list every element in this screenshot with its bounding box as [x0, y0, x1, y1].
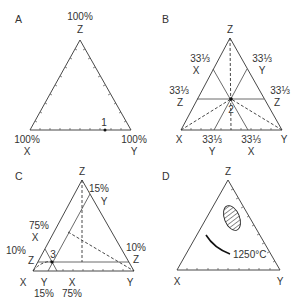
point-1-label: 1	[101, 117, 107, 128]
panel-label-a: A	[15, 13, 22, 25]
vertex-y-label: Y	[127, 277, 134, 288]
hatched-field	[220, 203, 244, 233]
x-percent-label: 75%	[29, 220, 49, 231]
frac-label: 33⅓	[169, 85, 189, 96]
y-label: Y	[209, 146, 216, 157]
vertex-x-label: X	[174, 276, 181, 287]
dashed-diagonal	[68, 232, 134, 271]
z-label: Z	[274, 97, 280, 108]
panel-a: A 100% Z 1 100% X 100% Y	[14, 11, 147, 157]
x-label: X	[32, 232, 39, 243]
composition-point-2	[229, 97, 233, 101]
ternary-diagrams: A 100% Z 1 100% X 100% Y B Z	[0, 0, 303, 302]
point-2-label: 2	[228, 104, 234, 115]
y-label: Y	[101, 196, 108, 207]
median-x	[181, 99, 231, 130]
x-label: X	[193, 65, 200, 76]
tick-marks	[35, 49, 126, 130]
apex-percent-label: 100%	[67, 11, 93, 22]
z-label: Z	[177, 97, 183, 108]
vertex-y-percent: 100%	[121, 134, 147, 145]
z-percent-label: 10%	[126, 242, 146, 253]
x-label: X	[248, 146, 255, 157]
point-3-label: 3	[50, 249, 56, 260]
apex-z-label: Z	[227, 24, 233, 35]
vertex-y-label: Y	[281, 134, 288, 145]
composition-point-3	[50, 260, 53, 263]
median-z	[230, 38, 231, 130]
frac-label: 33⅓	[252, 53, 272, 64]
y-label: Y	[259, 65, 266, 76]
y-label: Y	[41, 277, 48, 288]
composition-point-1	[104, 129, 107, 132]
frac-label: 33⅓	[270, 85, 290, 96]
vertex-x-percent: 100%	[14, 134, 40, 145]
vertex-x-label: X	[176, 134, 183, 145]
ternary-triangle	[30, 40, 131, 130]
z-label: Z	[133, 254, 139, 265]
x-percent-label: 75%	[62, 288, 82, 299]
y-percent-label: 15%	[89, 183, 109, 194]
panel-label-c: C	[15, 170, 23, 182]
apex-z-label: Z	[225, 166, 231, 177]
apex-z-label: Z	[77, 24, 83, 35]
z-percent-label: 10%	[6, 245, 26, 256]
vertex-y-label: Y	[277, 276, 284, 287]
panel-c: C Z 3 15% Y 75% X 10% Z 10% Z X Y Y 15% …	[6, 166, 146, 299]
ternary-triangle	[181, 38, 282, 130]
y-percent-label: 15%	[34, 288, 54, 299]
vertex-x-label: X	[24, 146, 31, 157]
z-label: Z	[28, 255, 34, 266]
panel-label-d: D	[162, 170, 170, 182]
frac-label: 33⅓	[241, 134, 261, 145]
panel-label-b: B	[162, 13, 169, 25]
panel-b: B Z 2 33⅓ X 33⅓ Y 33⅓ Z 33⅓ Z X Y 33⅓ Y …	[162, 13, 290, 157]
frac-label: 33⅓	[190, 53, 210, 64]
apex-z-label: Z	[79, 166, 85, 177]
x-label: X	[69, 277, 76, 288]
isotherm-curve	[206, 235, 230, 254]
vertex-x-label: X	[20, 277, 27, 288]
panel-d: D Z 1250°C X Y	[162, 166, 284, 287]
vertex-y-label: Y	[131, 146, 138, 157]
isotherm-label: 1250°C	[233, 249, 266, 260]
frac-label: 33⅓	[202, 134, 222, 145]
